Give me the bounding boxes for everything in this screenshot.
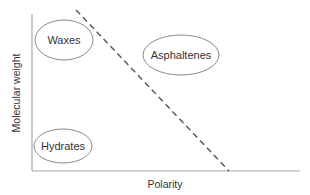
waxes-label: Waxes (47, 34, 81, 46)
y-axis-label: Molecular weight (10, 54, 22, 133)
diagram-canvas: Waxes Asphaltenes Hydrates Polarity Mole… (0, 0, 310, 195)
x-axis-label: Polarity (147, 178, 183, 190)
hydrates-label: Hydrates (41, 140, 86, 152)
asphaltenes-label: Asphaltenes (151, 49, 212, 61)
dashed-boundary-line (76, 10, 229, 171)
